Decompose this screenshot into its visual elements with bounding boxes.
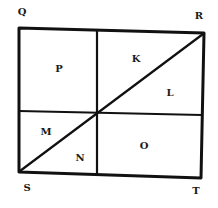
diagonal-s-r <box>20 34 203 171</box>
horizontal-divider <box>19 111 202 115</box>
region-label-m: M <box>40 126 51 137</box>
region-label-k: K <box>132 53 141 64</box>
region-label-p: P <box>55 63 63 74</box>
corner-label-q: Q <box>18 6 27 17</box>
region-label-l: L <box>166 87 173 98</box>
corner-label-t: T <box>192 185 200 196</box>
region-label-n: N <box>75 152 84 163</box>
corner-label-r: R <box>195 10 204 21</box>
diagram-canvas: Q R S T P K L M N O <box>0 0 218 208</box>
region-label-o: O <box>140 140 149 151</box>
corner-label-s: S <box>23 182 30 193</box>
